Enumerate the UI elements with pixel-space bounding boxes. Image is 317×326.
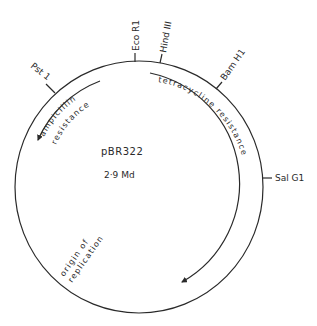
- gene-label-amp-resistance: resistance: [50, 100, 92, 146]
- hindiii-tick: [160, 54, 162, 63]
- site-label-pst1: Pst 1: [29, 61, 53, 82]
- plasmid-name: pBR322: [101, 146, 143, 157]
- plasmid-size: 2·9 Md: [104, 170, 135, 180]
- site-label-bamh1: Bam H1: [218, 47, 247, 82]
- gene-label-tetracycline: tetracycline resistance: [158, 75, 249, 157]
- site-label-ecor1: Eco R1: [131, 20, 141, 51]
- bamh1-tick: [216, 82, 222, 89]
- plasmid-map: Pst 1 Eco R1 Hind III Bam H1 Sal G1 ampi…: [0, 0, 317, 326]
- site-label-salg1: Sal G1: [275, 173, 304, 183]
- gene-label-tetracycline-path: tetracycline resistance: [158, 75, 249, 157]
- site-label-hindiii: Hind III: [158, 21, 173, 54]
- tet-resistance-arrow: [150, 73, 240, 282]
- plasmid-circle: [15, 61, 263, 313]
- gene-label-amp-resistance-path: resistance: [50, 100, 92, 146]
- pst1-tick: [46, 84, 55, 93]
